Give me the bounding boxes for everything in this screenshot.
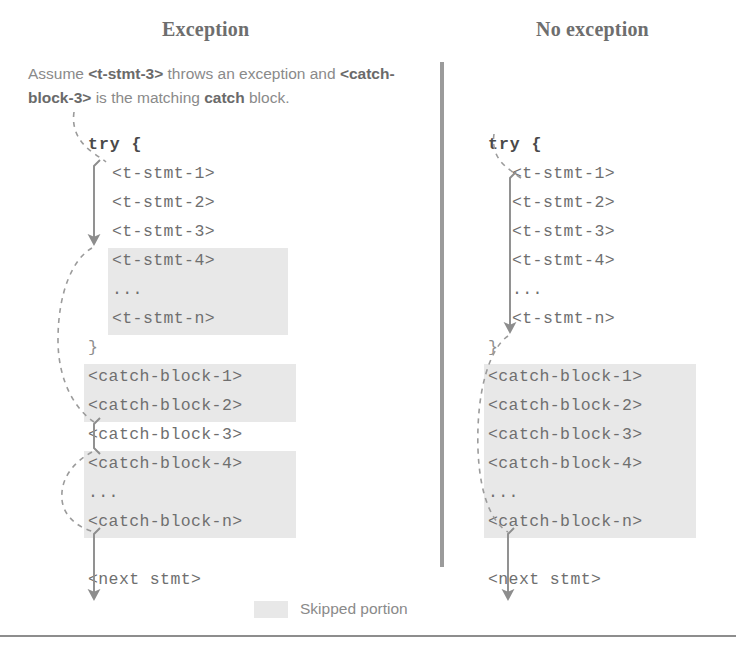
caption-segment-5: catch: [204, 89, 245, 106]
code-line: <catch-block-1>: [488, 362, 643, 391]
panel-heading-no-exception: No exception: [536, 18, 649, 41]
code-line: }: [488, 333, 498, 362]
caption-segment-6: block.: [245, 89, 290, 106]
code-line: <t-stmt-2>: [488, 188, 615, 217]
bottom-rule: [0, 635, 736, 637]
code-line: <t-stmt-1>: [88, 159, 215, 188]
legend: Skipped portion: [254, 600, 408, 618]
code-line: ...: [88, 275, 143, 304]
caption-segment-1: <t-stmt-3>: [88, 65, 163, 82]
code-line: ...: [88, 478, 119, 507]
code-line: try {: [488, 130, 543, 159]
caption-segment-0: Assume: [28, 65, 88, 82]
code-line: <t-stmt-3>: [488, 217, 615, 246]
code-line: <catch-block-n>: [88, 507, 243, 536]
caption-segment-4: is the matching: [91, 89, 204, 106]
caption-segment-2: throws an exception and: [163, 65, 340, 82]
legend-swatch-skipped: [254, 601, 288, 618]
code-line: <catch-block-n>: [488, 507, 643, 536]
panel-divider: [440, 62, 444, 567]
panel-heading-exception: Exception: [162, 18, 249, 41]
code-line: <next stmt>: [488, 565, 601, 594]
code-line: <catch-block-3>: [88, 420, 243, 449]
code-line: ...: [488, 275, 543, 304]
code-line: <catch-block-2>: [488, 391, 643, 420]
code-line: <t-stmt-4>: [488, 246, 615, 275]
exception-flow-diagram: Exception No exception Assume <t-stmt-3>…: [0, 0, 736, 645]
code-line: <t-stmt-3>: [88, 217, 215, 246]
code-line: <next stmt>: [88, 565, 201, 594]
code-line: try {: [88, 130, 143, 159]
code-line: <t-stmt-2>: [88, 188, 215, 217]
exception-caption: Assume <t-stmt-3> throws an exception an…: [28, 62, 428, 110]
code-line: <t-stmt-n>: [488, 304, 615, 333]
code-line: <catch-block-4>: [88, 449, 243, 478]
legend-label-skipped: Skipped portion: [300, 600, 408, 618]
code-line: <catch-block-2>: [88, 391, 243, 420]
code-line: <t-stmt-n>: [88, 304, 215, 333]
code-line: <t-stmt-4>: [88, 246, 215, 275]
code-line: <catch-block-3>: [488, 420, 643, 449]
code-line: ...: [488, 478, 519, 507]
code-line: <catch-block-1>: [88, 362, 243, 391]
code-line: }: [88, 333, 98, 362]
code-line: <t-stmt-1>: [488, 159, 615, 188]
code-line: <catch-block-4>: [488, 449, 643, 478]
